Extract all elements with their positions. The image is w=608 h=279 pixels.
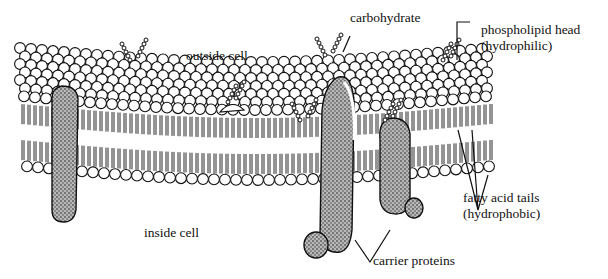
label-inside-cell: inside cell [144, 225, 199, 241]
carrier-protein-left [52, 86, 78, 222]
label-hydrophobic: (hydrophobic) [463, 206, 540, 222]
label-carrier-proteins: carrier proteins [373, 253, 455, 269]
lower-leaflet-heads [19, 91, 495, 185]
label-hydrophilic: (hydrophilic) [481, 38, 552, 54]
label-phospholipid-head: phospholipid head [481, 22, 580, 38]
label-carbohydrate: carbohydrate [350, 10, 420, 26]
label-fatty-acid-tails: fatty acid tails [463, 190, 539, 206]
membrane-diagram: carbohydrate phospholipid head (hydrophi… [0, 0, 608, 279]
label-outside-cell: outside cell [186, 48, 248, 64]
carrier-protein-right [380, 118, 423, 218]
